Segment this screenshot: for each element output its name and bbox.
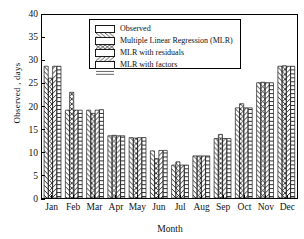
bar [133,138,137,198]
legend-swatch-mlr-residuals-icon [95,49,115,58]
bar [150,151,154,198]
x-tick-label: Feb [66,202,80,212]
y-tick-mark [41,129,45,130]
x-tick-label: Mar [87,202,103,212]
bar [129,138,133,198]
bar [214,139,218,198]
x-tick-label: Dec [280,202,295,212]
legend-label: Multiple Linear Regression (MLR) [120,36,233,45]
legend-item: Observed [95,23,236,35]
bar [95,110,99,198]
bar [142,138,146,198]
bar [278,66,282,198]
bar [240,104,244,198]
y-tick-label: 15 [12,125,38,135]
y-tick-mark [41,83,45,84]
x-tick-mark [158,195,159,199]
bar [44,66,48,198]
x-tick-label: Jan [45,202,58,212]
bar [235,108,239,198]
bar [65,110,69,198]
y-tick-label: 30 [12,55,38,65]
bar [248,108,252,198]
x-tick-mark [244,195,245,199]
y-tick-label: 20 [12,102,38,112]
y-tick-mark [41,175,45,176]
bar [261,82,265,198]
bar [227,139,231,198]
bar [159,150,163,198]
bar [201,156,205,198]
legend-item: Multiple Linear Regression (MLR) [95,35,236,47]
y-tick-mark [41,199,45,200]
bar [112,135,116,198]
legend-swatch-mlr-icon [95,37,115,46]
bar [74,110,78,198]
legend-swatch-mlr-factors-icon [95,61,115,70]
bar [269,83,273,198]
y-axis-ticks: 0510152025303540 [8,0,38,239]
legend: Observed Multiple Linear Regression (MLR… [89,19,241,69]
x-tick-mark [201,195,202,199]
x-tick-mark [94,195,95,199]
y-tick-mark [41,152,45,153]
x-tick-mark [51,195,52,199]
x-tick-mark [137,195,138,199]
bar [218,134,222,198]
bar [57,66,61,198]
bar [48,78,52,198]
legend-label: MLR with residuals [120,48,184,57]
x-tick-mark [265,195,266,199]
y-tick-mark [41,37,45,38]
bar [78,110,82,198]
x-tick-label: Jun [152,202,165,212]
x-tick-mark [73,195,74,199]
x-tick-label: Aug [193,202,209,212]
x-tick-mark [223,195,224,199]
figure: Observed , days 0510152025303540 JanFebM… [0,0,304,239]
x-tick-label: Apr [109,202,124,212]
bar [197,156,201,198]
bar [257,83,261,198]
bar [172,165,176,198]
bar [184,165,188,198]
x-axis-title: Month [41,224,299,234]
bar [180,165,184,198]
bar [265,83,269,198]
x-tick-label: May [129,202,146,212]
legend-item: MLR with factors [95,59,236,71]
x-tick-label: Nov [258,202,274,212]
x-tick-label: Sep [216,202,230,212]
y-tick-label: 0 [12,194,38,204]
y-tick-label: 40 [12,9,38,19]
bar [282,66,286,198]
y-tick-label: 10 [12,148,38,158]
bar [244,108,248,198]
bar [286,66,290,198]
x-tick-label: Oct [238,202,252,212]
x-tick-mark [287,195,288,199]
legend-label: Observed [120,24,151,33]
bar [223,139,227,198]
bar [87,110,91,198]
bar [70,92,74,198]
y-tick-mark [41,14,45,15]
bar [206,156,210,198]
y-tick-mark [41,60,45,61]
legend-item: MLR with residuals [95,47,236,59]
legend-label: MLR with factors [120,60,177,69]
y-tick-label: 25 [12,78,38,88]
bar [138,138,142,198]
bar [155,159,159,198]
bar [176,162,180,198]
x-tick-label: Jul [175,202,186,212]
x-tick-mark [180,195,181,199]
bar [291,66,295,198]
x-tick-mark [115,195,116,199]
bar [116,136,120,198]
y-tick-label: 35 [12,32,38,42]
bar [193,156,197,198]
legend-swatch-observed-icon [95,25,115,34]
bar [163,150,167,198]
bar [91,113,95,198]
